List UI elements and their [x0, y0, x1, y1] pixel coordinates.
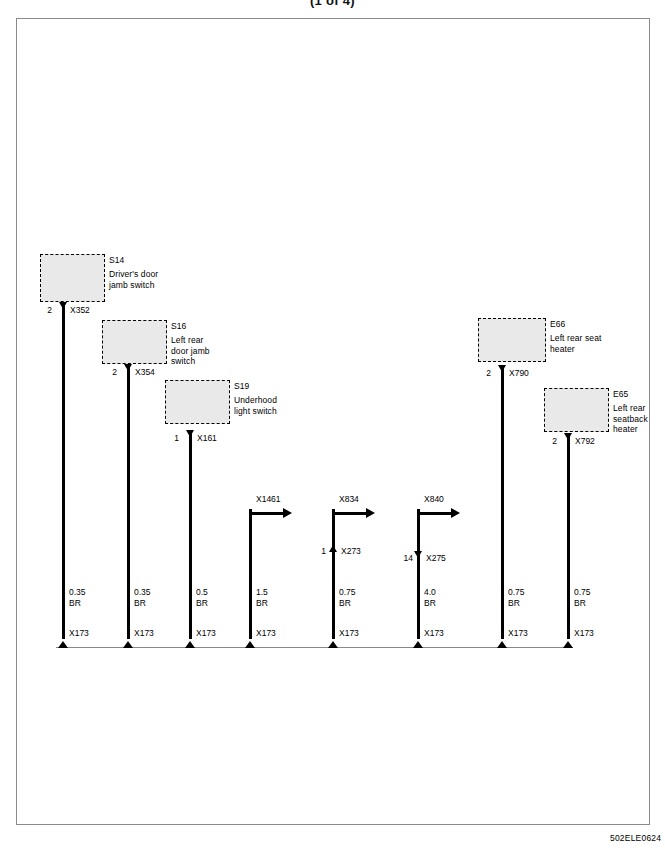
wire-5 — [332, 510, 335, 639]
component-label-s14: Driver's door jamb switch — [109, 269, 184, 290]
pin-number-x275: 14 — [395, 553, 413, 563]
footer-diagram-code: 502ELE0624 — [610, 833, 661, 843]
component-id-e65: E65 — [613, 389, 628, 400]
wire-gauge-5: 0.75 — [339, 587, 356, 597]
ground-symbol-7 — [497, 641, 507, 648]
connector-name-x161: X161 — [197, 433, 217, 443]
wire-4 — [249, 510, 252, 639]
ground-name-2: X173 — [134, 628, 154, 638]
page-title: (1 of 4) — [0, 0, 665, 8]
wire-gauge-7: 0.75 — [508, 587, 525, 597]
wire-8 — [567, 433, 570, 639]
wire-spec-3: 0.5BR — [196, 587, 208, 608]
component-id-s16: S16 — [171, 321, 186, 332]
wire-color-8: BR — [574, 598, 586, 608]
connector-arrowhead-x840 — [451, 508, 460, 518]
connector-name-x792: X792 — [575, 436, 595, 446]
connector-name-x834: X834 — [339, 494, 359, 504]
pin-number-x161: 1 — [163, 433, 179, 443]
pin-number-x790: 2 — [475, 368, 491, 378]
connector-line-x840 — [417, 512, 452, 515]
connector-name-x1461: X1461 — [256, 494, 281, 504]
wire-spec-2: 0.35BR — [134, 587, 151, 608]
component-box-s19[interactable] — [165, 380, 230, 424]
connector-arrowhead-x1461 — [283, 508, 292, 518]
ground-symbol-1 — [58, 641, 68, 648]
wire-spec-4: 1.5BR — [256, 587, 268, 608]
component-id-s19: S19 — [234, 381, 249, 392]
connector-name-x273: X273 — [341, 546, 361, 556]
connector-arrowhead-x834 — [366, 508, 375, 518]
component-label-e65: Left rear seatback heater — [613, 403, 665, 435]
ground-name-3: X173 — [196, 628, 216, 638]
connector-line-x834 — [332, 512, 367, 515]
component-id-e66: E66 — [550, 319, 565, 330]
component-id-s14: S14 — [109, 255, 124, 266]
component-box-s14[interactable] — [40, 254, 105, 302]
wire-color-5: BR — [339, 598, 351, 608]
wire-color-2: BR — [134, 598, 146, 608]
ground-bus — [56, 647, 573, 648]
connector-line-x1461 — [249, 512, 284, 515]
ground-symbol-2 — [123, 641, 133, 648]
ground-symbol-8 — [563, 641, 573, 648]
component-box-e66[interactable] — [478, 318, 546, 362]
wire-spec-6: 4.0BR — [424, 587, 436, 608]
connector-name-x352: X352 — [70, 305, 90, 315]
pin-number-x354: 2 — [101, 367, 117, 377]
connector-name-x790: X790 — [509, 368, 529, 378]
ground-name-7: X173 — [508, 628, 528, 638]
wire-gauge-6: 4.0 — [424, 587, 436, 597]
component-box-e65[interactable] — [544, 388, 609, 432]
connector-name-x354: X354 — [135, 367, 155, 377]
wire-spec-8: 0.75BR — [574, 587, 591, 608]
wire-color-7: BR — [508, 598, 520, 608]
wire-gauge-4: 1.5 — [256, 587, 268, 597]
pin-number-x792: 2 — [541, 436, 557, 446]
wire-3 — [189, 430, 192, 639]
wire-gauge-8: 0.75 — [574, 587, 591, 597]
wire-spec-7: 0.75BR — [508, 587, 525, 608]
wire-color-4: BR — [256, 598, 268, 608]
component-label-s16: Left rear door jamb switch — [171, 335, 241, 367]
ground-name-8: X173 — [574, 628, 594, 638]
ground-name-6: X173 — [424, 628, 444, 638]
wire-gauge-1: 0.35 — [69, 587, 86, 597]
wire-1 — [62, 302, 65, 639]
pin-number-x273: 1 — [310, 546, 326, 556]
ground-name-4: X173 — [256, 628, 276, 638]
wire-spec-5: 0.75BR — [339, 587, 356, 608]
ground-symbol-5 — [328, 641, 338, 648]
ground-symbol-4 — [245, 641, 255, 648]
wire-7 — [501, 365, 504, 639]
connector-name-x840: X840 — [424, 494, 444, 504]
wire-2 — [127, 364, 130, 639]
wire-color-1: BR — [69, 598, 81, 608]
wire-color-3: BR — [196, 598, 208, 608]
wire-color-6: BR — [424, 598, 436, 608]
wire-spec-1: 0.35BR — [69, 587, 86, 608]
ground-name-1: X173 — [69, 628, 89, 638]
ground-name-5: X173 — [339, 628, 359, 638]
ground-symbol-3 — [185, 641, 195, 648]
pin-number-x352: 2 — [36, 305, 52, 315]
connector-arrow-x275 — [414, 551, 422, 558]
component-label-s19: Underhood light switch — [234, 395, 304, 416]
wiring-diagram-sheet: (1 of 4) S14 Driver's door jamb switch 2… — [0, 0, 665, 850]
connector-name-x275: X275 — [426, 553, 446, 563]
wire-gauge-2: 0.35 — [134, 587, 151, 597]
wire-gauge-3: 0.5 — [196, 587, 208, 597]
wire-6 — [417, 510, 420, 639]
component-label-e66: Left rear seat heater — [550, 333, 630, 354]
component-box-s16[interactable] — [102, 320, 167, 364]
connector-arrow-x273 — [329, 545, 337, 552]
ground-symbol-6 — [413, 641, 423, 648]
